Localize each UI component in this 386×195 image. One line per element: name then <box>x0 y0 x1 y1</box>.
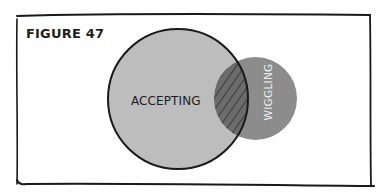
figure-title: FIGURE 47 <box>26 26 104 42</box>
set-label-accepting: ACCEPTING <box>131 94 201 108</box>
set-label-wiggling: WIGGLING <box>262 62 274 122</box>
figure-panel: FIGURE 47 ACCEPTING WIGGLING <box>0 0 386 195</box>
